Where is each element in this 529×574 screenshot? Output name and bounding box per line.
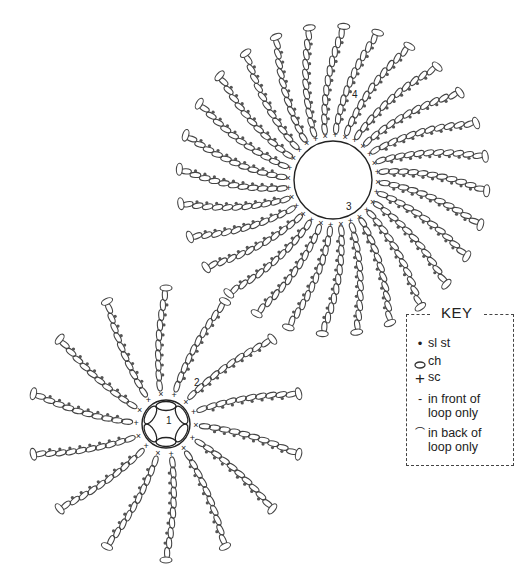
slip-stitch-icon (412, 175, 415, 178)
chain-stitch-icon (304, 39, 311, 51)
end-loop-icon (383, 318, 396, 328)
petal-chain: + (190, 433, 279, 515)
slip-stitch-icon (266, 131, 269, 134)
slip-stitch-icon (370, 249, 373, 252)
slip-stitch-icon (301, 125, 304, 128)
slip-stitch-icon (306, 285, 309, 288)
slip-stitch-icon (209, 511, 212, 514)
chain-stitch-icon (235, 249, 247, 260)
slip-stitch-icon (254, 200, 257, 203)
slip-stitch-icon (243, 483, 246, 486)
chain-stitch-icon (293, 213, 304, 224)
slip-stitch-icon (71, 496, 74, 499)
slip-stitch-icon (273, 138, 276, 141)
slip-stitch-icon (168, 481, 171, 484)
chain-stitch-icon (113, 331, 123, 343)
petal-chain: × (29, 431, 141, 461)
end-loop-icon (29, 448, 38, 461)
slip-stitch-icon (135, 371, 138, 374)
end-loop-icon (371, 28, 384, 37)
chain-stitch-icon (362, 90, 371, 102)
chain-stitch-icon (443, 121, 455, 130)
slip-stitch-icon (310, 42, 313, 45)
slip-stitch-icon (392, 187, 395, 190)
slip-stitch-icon (255, 269, 258, 272)
slip-stitch-icon (264, 298, 267, 301)
slip-stitch-icon (393, 100, 396, 103)
slip-stitch-icon (394, 256, 397, 259)
slip-stitch-icon (257, 497, 260, 500)
slip-stitch-icon (444, 239, 447, 242)
chain-stitch-icon (209, 504, 219, 516)
slip-stitch-icon (268, 101, 271, 104)
slip-stitch-icon (308, 62, 311, 65)
slip-stitch-icon (416, 247, 419, 250)
slip-stitch-dot-icon: • (413, 337, 427, 351)
slip-stitch-icon (384, 239, 387, 242)
slip-stitch-icon (58, 399, 61, 402)
slip-stitch-icon (390, 219, 393, 222)
slip-stitch-icon (337, 50, 340, 53)
round-number-label: 1 (166, 415, 172, 426)
slip-stitch-icon (97, 480, 100, 483)
end-loop-icon (54, 333, 66, 346)
slip-stitch-icon (249, 354, 252, 357)
slip-stitch-icon (410, 240, 413, 243)
chain-stitch-icon (362, 136, 373, 147)
slip-stitch-icon (131, 362, 134, 365)
slip-stitch-icon (308, 82, 311, 85)
slip-stitch-icon (274, 156, 277, 159)
chain-stitch-icon (355, 309, 362, 321)
slip-stitch-icon (232, 180, 235, 183)
chain-stitch-icon (296, 258, 305, 270)
slip-stitch-icon (257, 147, 260, 150)
slip-stitch-icon (251, 400, 254, 403)
slip-stitch-icon (355, 275, 358, 278)
slip-stitch-icon (121, 462, 124, 465)
slip-stitch-icon (327, 117, 330, 120)
chain-stitch-icon (428, 96, 440, 107)
petal-chain: × (360, 86, 466, 151)
chain-stitch-icon (398, 257, 409, 269)
slip-stitch-icon (390, 160, 393, 163)
chain-stitch-icon (365, 114, 375, 126)
end-loop-icon (185, 230, 195, 243)
chain-stitch-icon (380, 206, 392, 216)
end-loop-icon (483, 185, 490, 197)
petal-chain: + (100, 296, 151, 404)
slip-stitch-icon (382, 296, 385, 299)
chain-stitch-icon (384, 300, 393, 312)
slip-stitch-icon (164, 313, 167, 316)
slip-stitch-icon (113, 468, 116, 471)
slip-stitch-icon (336, 249, 339, 252)
slip-stitch-icon (353, 256, 356, 259)
slip-stitch-icon (250, 490, 253, 493)
slip-stitch-icon (261, 398, 264, 401)
slip-stitch-icon (378, 277, 381, 280)
end-loop-icon (160, 285, 172, 291)
chain-stitch-icon (465, 182, 476, 188)
slip-stitch-icon (354, 266, 357, 269)
slip-stitch-icon (215, 530, 218, 533)
key-label: ch (428, 354, 441, 368)
slip-stitch-icon (117, 437, 120, 440)
petal-chain: + (191, 387, 303, 417)
slip-stitch-icon (261, 183, 264, 186)
slip-stitch-icon (421, 176, 424, 179)
chain-stitch-icon (284, 241, 294, 253)
chain-stitch-icon (218, 455, 230, 465)
slip-stitch-icon (414, 215, 417, 218)
slip-stitch-icon (271, 446, 274, 449)
slip-stitch-icon (228, 254, 231, 257)
slip-stitch-icon (426, 107, 429, 110)
slip-stitch-icon (247, 275, 250, 278)
chain-stitch-icon (117, 394, 129, 404)
slip-stitch-icon (211, 324, 214, 327)
slip-stitch-icon (193, 474, 196, 477)
chain-stitch-icon (353, 129, 363, 141)
slip-stitch-icon (293, 108, 296, 111)
slip-stitch-icon (383, 306, 386, 309)
end-loop-icon (250, 308, 263, 319)
slip-stitch-icon (376, 268, 379, 271)
slip-stitch-icon (242, 223, 245, 226)
